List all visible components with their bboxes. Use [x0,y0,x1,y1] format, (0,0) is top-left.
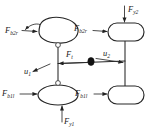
label-displacement-u2: u2 [103,49,110,59]
label-force-y1-bottom: Fy1 [63,117,75,127]
label-force-b1l-left: Fb1l [1,89,15,99]
bottom-left-body [38,85,78,105]
joints-group [56,43,95,86]
displacement-u1-arrow [33,64,50,72]
label-force-t-center: Ft [65,50,73,60]
label-displacement-u1: u1 [24,67,31,77]
top-left-moment-tail [26,24,41,30]
joint-lower-revolute-icon [56,81,61,86]
force-t-left-arrow [59,63,88,64]
label-force-y2-top: Fy2 [127,5,139,15]
label-force-b2r-left: Fb2r [4,26,19,36]
free-body-diagram: Fb2r Fb1l Fb2r Fb1l Fy2 Fy1 Ft u1 [0,0,150,129]
top-left-body [39,17,78,43]
force-b2r-left-arrow [22,31,37,32]
joint-pivot-pin-icon [88,58,94,66]
force-b2r-right-arrow [93,31,107,32]
diagram-canvas: Fb2r Fb1l Fb2r Fb1l Fy2 Fy1 Ft u1 [0,0,150,129]
top-right-body [108,23,144,41]
joint-upper-revolute-icon [56,43,61,48]
label-force-b1l-right: Fb1l [74,89,88,99]
bottom-right-body [108,86,144,104]
label-force-b2r-right: Fb2r [73,24,88,34]
